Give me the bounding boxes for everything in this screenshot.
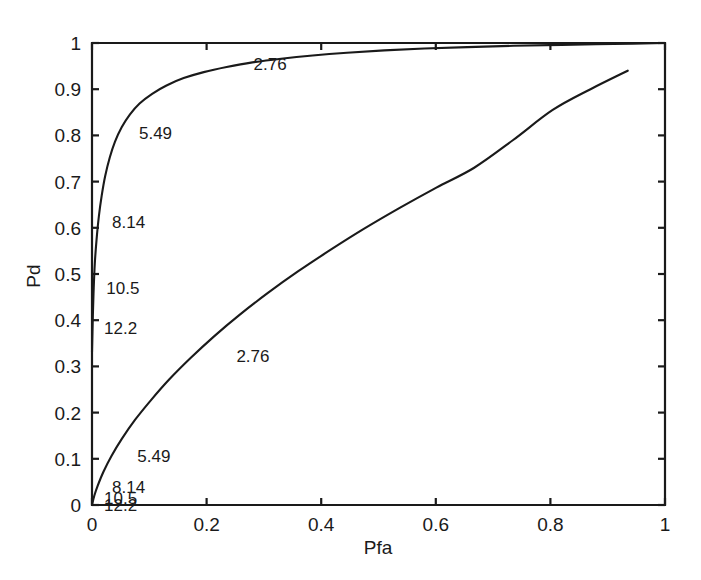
x-tick-label-2: 0.4 — [308, 514, 335, 535]
annotation-upper-5-49: 5.49 — [139, 124, 172, 143]
x-tick-label-0: 0 — [87, 514, 98, 535]
annotation-upper-2-76: 2.76 — [254, 55, 287, 74]
annotation-lower-2-76: 2.76 — [236, 347, 269, 366]
annotation-upper-12-2: 12.2 — [104, 319, 137, 338]
annotation-upper-8-14: 8.14 — [112, 213, 145, 232]
y-tick-label-9: 0.9 — [55, 79, 81, 100]
x-tick-label-1: 0.2 — [193, 514, 219, 535]
y-tick-label-4: 0.4 — [55, 310, 82, 331]
y-tick-label-2: 0.2 — [55, 403, 81, 424]
annotation-lower-5-49: 5.49 — [137, 447, 170, 466]
y-tick-label-5: 0.5 — [55, 264, 81, 285]
annotation-upper-10-5: 10.5 — [106, 279, 139, 298]
y-tick-label-1: 0.1 — [55, 449, 81, 470]
x-tick-label-3: 0.6 — [423, 514, 449, 535]
roc-plot-svg: 00.20.40.60.81 00.10.20.30.40.50.60.70.8… — [0, 0, 701, 580]
x-tick-label-4: 0.8 — [537, 514, 563, 535]
y-axis-title: Pd — [23, 264, 44, 287]
x-tick-label-5: 1 — [660, 514, 671, 535]
y-tick-label-6: 0.6 — [55, 218, 81, 239]
y-tick-label-0: 0 — [70, 495, 81, 516]
y-tick-label-3: 0.3 — [55, 356, 81, 377]
x-axis-title: Pfa — [364, 537, 393, 558]
y-tick-label-8: 0.8 — [55, 125, 81, 146]
roc-figure: 00.20.40.60.81 00.10.20.30.40.50.60.70.8… — [0, 0, 701, 580]
y-tick-label-7: 0.7 — [55, 172, 81, 193]
y-tick-label-10: 1 — [70, 33, 81, 54]
annotation-lower-12-2: 12.2 — [104, 496, 137, 515]
